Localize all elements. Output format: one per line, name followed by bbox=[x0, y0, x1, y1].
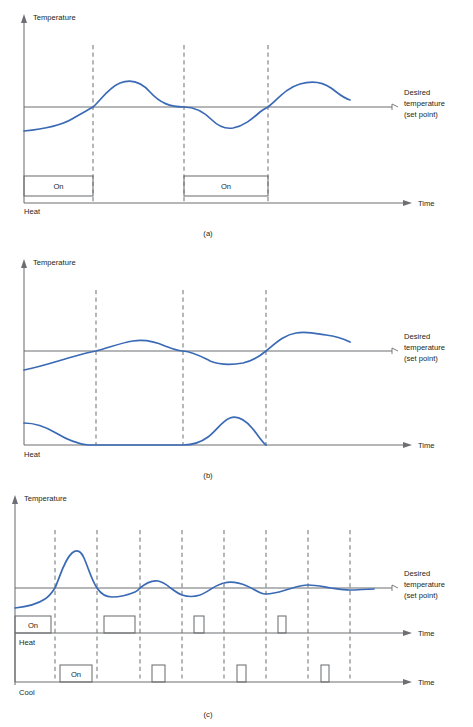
panel-a-setpoint-label-line2: temperature bbox=[404, 99, 445, 108]
panel-a-heat-on-label: On bbox=[53, 182, 63, 191]
panel-c-cool-band-label: Cool bbox=[19, 688, 35, 697]
panel-c-setpoint-label-line3: (set point) bbox=[404, 591, 438, 600]
panel-c-heat-pulse bbox=[194, 616, 204, 633]
panel-a-heat-band-label: Heat bbox=[24, 207, 41, 216]
panel-b-setpoint-label-line1: Desired bbox=[404, 332, 430, 341]
panel-b-y-axis-label: Temperature bbox=[33, 258, 76, 267]
panel-c-cool-on-label: On bbox=[71, 670, 81, 679]
panel-a-y-axis-label: Temperature bbox=[33, 13, 76, 22]
panel-c-cool-pulse bbox=[152, 665, 165, 682]
panel-b-heat-output-curve bbox=[24, 417, 266, 445]
panel-a-caption: (a) bbox=[203, 229, 213, 238]
panel-b-x-axis-label: Time bbox=[418, 441, 435, 450]
panel-b-heat-band-label: Heat bbox=[24, 450, 41, 459]
panel-b-setpoint-label-line3: (set point) bbox=[404, 354, 438, 363]
panel-a-heat-on-label: On bbox=[221, 182, 231, 191]
panel-c-caption: (c) bbox=[204, 710, 213, 719]
panel-b-setpoint-label-line2: temperature bbox=[404, 343, 445, 352]
panel-c-heat-pulse bbox=[278, 616, 286, 633]
panel-c-heat-band-label: Heat bbox=[19, 638, 36, 647]
panel-c-temperature-curve bbox=[15, 551, 374, 608]
panel-a-x-axis-label: Time bbox=[418, 199, 435, 208]
panel-c: Temperature Desired temperature (set poi… bbox=[0, 485, 473, 727]
panel-b-caption: (b) bbox=[203, 471, 213, 480]
panel-c-heat-pulse bbox=[104, 616, 135, 633]
panel-c-setpoint-label-line2: temperature bbox=[404, 580, 445, 589]
panel-c-cool-pulse bbox=[237, 665, 246, 682]
panel-c-setpoint-label-line1: Desired bbox=[404, 569, 430, 578]
panel-c-heat-time-label: Time bbox=[418, 629, 435, 638]
panel-c-y-axis-label: Temperature bbox=[24, 494, 67, 503]
thermostat-figure: Temperature Time Desired temperature (se… bbox=[0, 0, 473, 727]
panel-a-setpoint-label-line1: Desired bbox=[404, 88, 430, 97]
panel-a-setpoint-label-line3: (set point) bbox=[404, 110, 438, 119]
panel-c-heat-on-label: On bbox=[28, 621, 38, 630]
panel-c-cool-pulse bbox=[321, 665, 329, 682]
panel-a-temperature-curve bbox=[24, 81, 350, 131]
panel-a: Temperature Time Desired temperature (se… bbox=[0, 0, 473, 245]
panel-b: Temperature Time Desired temperature (se… bbox=[0, 245, 473, 485]
panel-c-cool-time-label: Time bbox=[418, 678, 435, 687]
